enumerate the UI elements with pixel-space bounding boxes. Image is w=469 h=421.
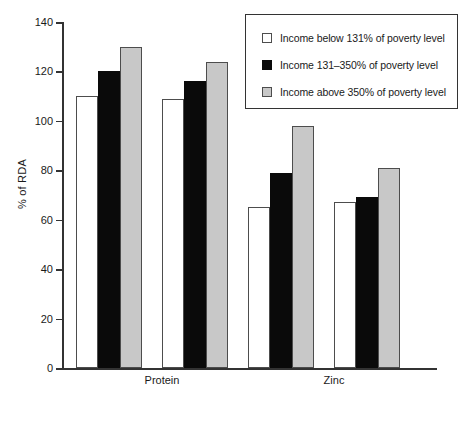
y-tick-mark — [56, 269, 62, 271]
y-tick-mark — [56, 368, 62, 370]
bar-chart-figure: % of RDA 020406080100120140 MenWomenMenW… — [0, 0, 469, 421]
x-axis-line — [62, 368, 437, 370]
bar — [334, 202, 356, 368]
y-tick-label: 60 — [41, 214, 53, 226]
legend-item-label: Income 131–350% of poverty level — [280, 59, 438, 71]
y-tick-label: 0 — [47, 362, 53, 374]
y-tick-label: 140 — [35, 16, 53, 28]
legend: Income below 131% of poverty levelIncome… — [245, 14, 458, 109]
legend-swatch-white-square — [262, 33, 272, 43]
x-group-label: Protein — [145, 374, 180, 386]
bar — [162, 99, 184, 368]
y-axis-line — [62, 22, 64, 368]
y-tick-label: 100 — [35, 115, 53, 127]
legend-item: Income below 131% of poverty level — [262, 25, 457, 50]
legend-item-label: Income above 350% of poverty level — [280, 86, 446, 98]
y-tick-mark — [56, 121, 62, 123]
y-tick-label: 120 — [35, 65, 53, 77]
bar — [206, 62, 228, 368]
bar — [184, 81, 206, 368]
bar — [292, 126, 314, 368]
y-tick-label: 80 — [41, 164, 53, 176]
legend-swatch-black-square — [262, 60, 272, 70]
bar — [248, 207, 270, 368]
y-axis-label: % of RDA — [16, 139, 28, 229]
legend-item: Income 131–350% of poverty level — [262, 52, 457, 77]
legend-item: Income above 350% of poverty level — [262, 79, 457, 104]
bar — [270, 173, 292, 368]
y-tick-label: 40 — [41, 263, 53, 275]
bar — [76, 96, 98, 368]
y-tick-label: 20 — [41, 313, 53, 325]
bar — [98, 71, 120, 368]
x-group-label: Zinc — [324, 374, 345, 386]
bar — [378, 168, 400, 368]
bar — [120, 47, 142, 368]
y-tick-mark — [56, 71, 62, 73]
legend-swatch-gray-square — [262, 87, 272, 97]
y-tick-mark — [56, 220, 62, 222]
y-tick-mark — [56, 319, 62, 321]
bar — [356, 197, 378, 368]
y-tick-mark — [56, 170, 62, 172]
y-tick-mark — [56, 22, 62, 24]
legend-item-label: Income below 131% of poverty level — [280, 32, 445, 44]
